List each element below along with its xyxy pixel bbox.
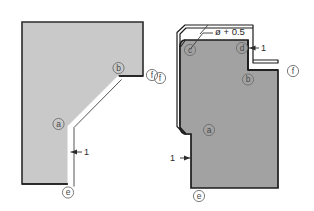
diagram-canvas: 1 a b e f [0, 0, 314, 211]
left-callout-b-label: b [116, 63, 121, 73]
right-callout-f-right: f [287, 65, 298, 76]
left-callout-e-label: e [66, 187, 71, 197]
right-callout-f-left-label: f [159, 73, 162, 83]
left-callout-e: e [62, 187, 73, 198]
left-callout-f-label: f [151, 70, 154, 80]
right-note-diameter: ø + 0.5 [215, 26, 245, 37]
right-callout-e: e [193, 190, 204, 201]
left-callout-a-label: a [56, 119, 61, 129]
right-callout-a-label: a [207, 125, 212, 135]
right-dim-bottom-arrowhead [184, 156, 190, 161]
right-callout-f-right-label: f [292, 66, 295, 76]
left-callout-f: f [146, 69, 157, 80]
left-figure: 1 a b e f [22, 22, 158, 198]
left-figure-body [22, 22, 143, 184]
right-callout-f-left: f [154, 72, 165, 83]
diagram-svg: 1 a b e f [0, 0, 314, 211]
left-dim-thickness-label: 1 [84, 147, 89, 157]
right-callout-e-label: e [197, 191, 202, 201]
right-dim-bottom-label: 1 [170, 153, 175, 163]
right-figure: ø + 0.5 1 1 a b c [154, 25, 298, 202]
right-dim-top-label: 1 [261, 43, 266, 53]
right-callout-b-label: b [246, 74, 251, 84]
right-callout-d-label: d [240, 43, 245, 53]
